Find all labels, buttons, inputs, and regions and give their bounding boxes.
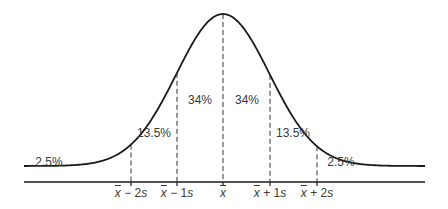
- sd-symbol: s: [187, 186, 193, 200]
- tick-offset: + 2: [307, 186, 327, 200]
- region-percent-label: 2.5%: [327, 155, 354, 169]
- sd-symbol: s: [327, 186, 333, 200]
- tick-offset: + 1: [260, 186, 280, 200]
- tick-offset: − 2: [121, 186, 141, 200]
- tick-label: x + 2s: [301, 186, 333, 200]
- sd-dashed-lines: [131, 14, 317, 182]
- tick-label: x − 2s: [115, 186, 147, 200]
- region-percent-label: 34%: [188, 93, 212, 107]
- tick-label: x + 1s: [254, 186, 286, 200]
- tick-offset: − 1: [167, 186, 187, 200]
- sd-symbol: s: [141, 186, 147, 200]
- sd-symbol: s: [280, 186, 286, 200]
- bell-curve: [24, 14, 425, 166]
- tick-label: x: [220, 186, 226, 200]
- region-percent-label: 34%: [235, 93, 259, 107]
- region-percent-label: 2.5%: [35, 155, 62, 169]
- mean-symbol: x: [220, 186, 226, 200]
- region-percent-label: 13.5%: [276, 126, 310, 140]
- tick-label: x − 1s: [161, 186, 193, 200]
- region-percent-label: 13.5%: [137, 126, 171, 140]
- normal-curve-diagram: [0, 0, 448, 209]
